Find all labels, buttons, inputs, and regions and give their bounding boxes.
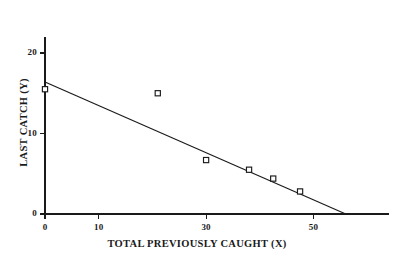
plot-canvas: [0, 0, 394, 259]
x-tick-label: 50: [298, 222, 330, 232]
x-tick-label: 10: [83, 222, 115, 232]
x-tick-label: 30: [190, 222, 222, 232]
scatter-plot-figure: 010200103050 LAST CATCH (Y) TOTAL PREVIO…: [0, 0, 394, 259]
y-tick-label: 0: [5, 208, 37, 218]
y-axis-title: LAST CATCH (Y): [18, 38, 29, 208]
data-point-marker[interactable]: [42, 87, 47, 92]
data-point-marker[interactable]: [246, 167, 251, 172]
data-point-marker[interactable]: [271, 176, 276, 181]
data-point-marker[interactable]: [204, 157, 209, 162]
data-point-marker[interactable]: [155, 91, 160, 96]
data-point-marker[interactable]: [297, 189, 302, 194]
x-axis-title: TOTAL PREVIOUSLY CAUGHT (X): [0, 238, 394, 249]
x-tick-label: 0: [29, 222, 61, 232]
axes-group: [40, 37, 389, 219]
